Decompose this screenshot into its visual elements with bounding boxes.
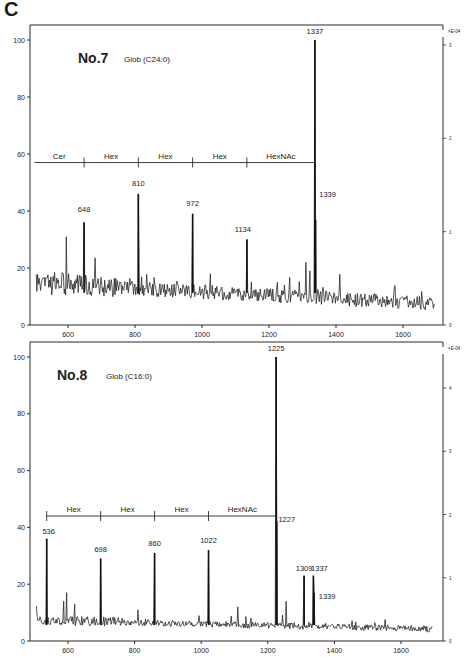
x-tick-label: 1200 (260, 647, 276, 654)
y-tick-label: 60 (17, 151, 25, 158)
y-tick-label: 40 (17, 208, 25, 215)
peak-label: 698 (94, 545, 107, 554)
spectrum-title: No.8 (57, 367, 88, 383)
x-tick-label: 1400 (327, 647, 343, 654)
fragment-label: Hex (104, 152, 118, 161)
fragment-ladder: CerHexHexHexHexNAc (35, 152, 315, 168)
fragment-label: Hex (120, 505, 134, 514)
y-tick-label: 0 (21, 322, 25, 329)
fragment-label: Hex (174, 505, 188, 514)
right-tick-label: 0 (449, 639, 452, 644)
right-tick-label: 3 (449, 449, 452, 454)
x-tick-label: 800 (129, 331, 141, 338)
fragment-label: Hex (158, 152, 172, 161)
y-tick-label: 80 (17, 410, 25, 417)
y-tick-label: 40 (17, 524, 25, 531)
spectrum-panel-no8: 020406080100600800100012001400160001234×… (13, 342, 460, 654)
y-tick-label: 20 (17, 265, 25, 272)
peak-label: 1339 (319, 592, 336, 601)
spectrum-subtitle: Glob (C16:0) (106, 372, 152, 381)
peak-label: 1339 (319, 190, 336, 199)
y-tick-label: 60 (17, 467, 25, 474)
right-tick-label: 0 (449, 323, 452, 328)
right-tick-label: 4 (449, 386, 452, 391)
fragment-label: HexNAc (228, 505, 257, 514)
right-tick-label: 3 (449, 43, 452, 48)
x-tick-label: 1200 (261, 331, 277, 338)
spectrum-trace (36, 357, 432, 632)
peak-label: 1134 (235, 225, 251, 234)
peak-label: 648 (78, 205, 91, 214)
x-tick-label: 1400 (328, 331, 344, 338)
peak-label: 1337 (307, 27, 324, 36)
panel-letter: C (4, 0, 18, 21)
spectrum-title: No.7 (78, 50, 109, 66)
x-tick-label: 1600 (393, 647, 409, 654)
x-tick-label: 1000 (194, 331, 210, 338)
peak-label: 1337 (311, 564, 328, 573)
peak-label: 1309 (296, 564, 313, 573)
right-tick-label: 1 (449, 230, 452, 235)
right-axis-label: ×E-04 (448, 29, 461, 34)
fragment-label: Cer (53, 152, 66, 161)
x-tick-label: 1600 (395, 331, 411, 338)
spectrum-panel-no7: 02040608010060080010001200140016000123×E… (13, 25, 460, 338)
right-tick-label: 2 (449, 136, 452, 141)
figure: C 02040608010060080010001200140016000123… (0, 0, 465, 666)
spectrum-subtitle: Glob (C24:0) (124, 55, 170, 64)
peak-label: 1225 (268, 344, 285, 353)
plot-frame (30, 342, 443, 641)
y-tick-label: 100 (13, 354, 25, 361)
peak-label: 536 (42, 527, 55, 536)
peak-label: 1227 (278, 515, 295, 524)
fragment-ladder: HexHexHexHexNAc (47, 505, 276, 521)
y-tick-label: 20 (17, 581, 25, 588)
right-tick-label: 2 (449, 513, 452, 518)
y-tick-label: 80 (17, 94, 25, 101)
x-tick-label: 600 (62, 647, 74, 654)
peak-label: 1022 (200, 536, 217, 545)
y-tick-label: 100 (13, 37, 25, 44)
peak-label: 972 (186, 199, 199, 208)
y-tick-label: 0 (21, 638, 25, 645)
right-tick-label: 1 (449, 576, 452, 581)
plot-frame (30, 25, 443, 325)
spectra-svg: 02040608010060080010001200140016000123×E… (0, 0, 465, 666)
fragment-label: Hex (213, 152, 227, 161)
x-tick-label: 600 (62, 331, 74, 338)
peak-label: 860 (148, 539, 161, 548)
fragment-label: HexNAc (266, 152, 295, 161)
spectrum-trace (36, 40, 434, 310)
fragment-label: Hex (67, 505, 81, 514)
x-tick-label: 800 (129, 647, 141, 654)
peak-label: 810 (132, 179, 145, 188)
right-axis-label: ×E-04 (448, 346, 461, 351)
x-tick-label: 1000 (193, 647, 209, 654)
